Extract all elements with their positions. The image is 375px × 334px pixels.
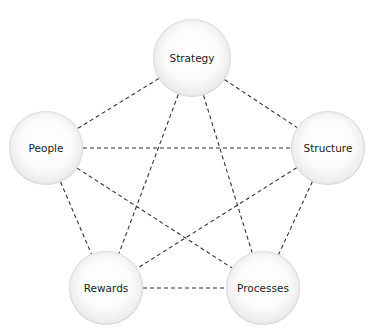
node-structure: Structure xyxy=(291,111,365,185)
edge-people-rewards xyxy=(61,182,92,254)
node-label-strategy: Strategy xyxy=(170,52,215,64)
node-people: People xyxy=(9,111,83,185)
edge-strategy-processes xyxy=(204,95,253,252)
edge-strategy-structure xyxy=(225,80,298,128)
node-processes: Processes xyxy=(226,251,300,325)
node-label-processes: Processes xyxy=(237,282,289,294)
node-strategy: Strategy xyxy=(153,19,231,97)
edge-strategy-people xyxy=(78,79,159,129)
node-rewards: Rewards xyxy=(69,251,143,325)
node-label-structure: Structure xyxy=(304,142,353,154)
edge-structure-processes xyxy=(279,182,313,255)
node-label-people: People xyxy=(29,142,64,154)
node-label-rewards: Rewards xyxy=(84,282,129,294)
edge-strategy-rewards xyxy=(119,95,178,254)
